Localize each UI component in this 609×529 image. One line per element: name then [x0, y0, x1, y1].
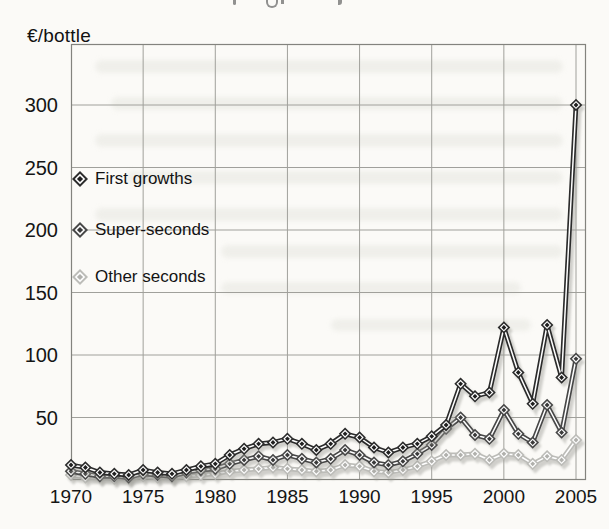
y-tick-label: 200	[12, 219, 58, 241]
legend-diamond-icon	[71, 268, 89, 286]
legend-item-other-seconds: Other seconds	[71, 267, 206, 287]
y-tick-label: 50	[12, 407, 58, 429]
x-tick-label: 1975	[111, 486, 175, 508]
legend-label: First growths	[95, 169, 192, 189]
x-tick-label: 1985	[255, 486, 319, 508]
x-tick-label: 2000	[472, 486, 536, 508]
caption-fragment-mark	[266, 0, 278, 8]
x-tick-label: 1995	[400, 486, 464, 508]
legend-item-first-growths: First growths	[71, 169, 192, 189]
caption-fragment-mark	[338, 0, 342, 5]
x-tick-label: 2005	[544, 486, 608, 508]
legend-label: Other seconds	[95, 267, 206, 287]
plot-area	[71, 44, 586, 480]
x-tick-label: 1990	[328, 486, 392, 508]
x-tick-label: 1970	[39, 486, 103, 508]
legend-diamond-icon	[71, 221, 89, 239]
y-tick-label: 250	[12, 157, 58, 179]
legend-diamond-icon	[71, 170, 89, 188]
figure-page: €/bottle 50100150200250300 1970197519801…	[0, 0, 609, 529]
caption-fragment-mark	[233, 0, 236, 5]
chart-svg	[71, 44, 586, 480]
y-tick-label: 100	[12, 344, 58, 366]
legend-item-super-seconds: Super-seconds	[71, 220, 209, 240]
legend-label: Super-seconds	[95, 220, 209, 240]
caption-fragment-mark	[281, 0, 284, 4]
y-tick-label: 300	[12, 94, 58, 116]
x-tick-label: 1980	[183, 486, 247, 508]
y-tick-label: 150	[12, 282, 58, 304]
